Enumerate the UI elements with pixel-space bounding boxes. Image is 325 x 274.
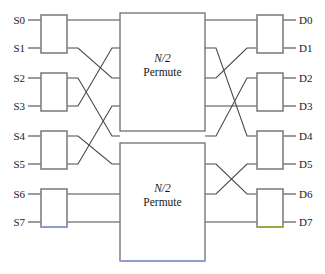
- destination-label-group: D0 D1 D2 D3 D4 D5 D6 D7: [299, 14, 313, 228]
- source-label-s7: S7: [13, 216, 25, 228]
- destination-label-d1: D1: [299, 42, 312, 54]
- wire-layer-left-stubs: [28, 20, 41, 222]
- wire-right-route-2: [205, 48, 257, 78]
- destination-label-d6: D6: [299, 188, 313, 200]
- destination-label-d3: D3: [299, 100, 313, 112]
- diagram-canvas: N/2 Permute N/2 Permute S0 S1 S2 S3 S4 S…: [0, 0, 325, 274]
- source-label-s6: S6: [13, 188, 25, 200]
- permute-bottom-line1: N/2: [153, 182, 171, 194]
- output-switch-3[interactable]: [257, 189, 283, 227]
- input-switch-3[interactable]: [41, 189, 67, 227]
- destination-label-d5: D5: [299, 158, 313, 170]
- wire-layer-right-routing: [205, 20, 257, 222]
- destination-label-d0: D0: [299, 14, 313, 26]
- input-switch-2[interactable]: [41, 131, 67, 169]
- wire-left-route-1: [67, 48, 120, 78]
- destination-label-d2: D2: [299, 72, 312, 84]
- source-label-s3: S3: [13, 100, 25, 112]
- wire-layer-right-stubs: [283, 20, 296, 222]
- output-switch-1[interactable]: [257, 73, 283, 111]
- wire-left-route-3: [67, 48, 120, 106]
- input-switch-0[interactable]: [41, 15, 67, 53]
- output-switch-box-group: [257, 15, 283, 227]
- permute-bottom-line2: Permute: [143, 196, 181, 208]
- permute-block-group: [120, 13, 205, 261]
- input-switch-1[interactable]: [41, 73, 67, 111]
- input-switch-box-group: [41, 15, 67, 227]
- source-label-s4: S4: [13, 130, 25, 142]
- destination-label-d7: D7: [299, 216, 313, 228]
- permute-top-line2: Permute: [143, 66, 181, 78]
- permutation-network-diagram: N/2 Permute N/2 Permute S0 S1 S2 S3 S4 S…: [0, 0, 325, 274]
- wire-right-route-6: [205, 164, 257, 194]
- wire-layer-left-routing: [67, 20, 120, 222]
- destination-label-d4: D4: [299, 130, 313, 142]
- source-label-s0: S0: [13, 14, 25, 26]
- output-switch-2[interactable]: [257, 131, 283, 169]
- source-label-s2: S2: [13, 72, 25, 84]
- output-switch-0[interactable]: [257, 15, 283, 53]
- wire-left-route-4: [67, 136, 120, 164]
- source-label-s1: S1: [13, 42, 25, 54]
- source-label-s5: S5: [13, 158, 25, 170]
- wire-right-route-4: [205, 78, 257, 136]
- source-label-group: S0 S1 S2 S3 S4 S5 S6 S7: [13, 14, 25, 228]
- permute-top-line1: N/2: [153, 52, 171, 64]
- wire-right-route-1: [205, 48, 257, 136]
